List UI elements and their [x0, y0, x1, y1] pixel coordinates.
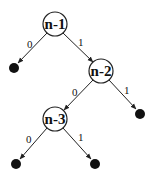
node-n-2: n-2	[89, 59, 113, 83]
edge-label-n3-leaf3: 0	[26, 133, 32, 145]
tree-diagram: 0 1 0 1 0 1 n-1 n-2 n-3	[0, 0, 155, 180]
leaf-node	[11, 159, 21, 169]
edge-n3-leaf3	[20, 128, 47, 159]
node-label: n-2	[91, 63, 112, 79]
node-n-1: n-1	[43, 12, 67, 36]
edge-label-n1-leaf1: 0	[27, 38, 33, 50]
edge-n3-leaf4	[63, 128, 91, 159]
node-n-3: n-3	[43, 107, 67, 131]
leaf-node	[135, 109, 145, 119]
edge-label-n2-n3: 0	[72, 86, 78, 98]
node-label: n-1	[45, 16, 66, 32]
node-label: n-3	[45, 111, 66, 127]
edge-label-n2-leaf2: 1	[124, 84, 130, 96]
edge-n2-n3	[64, 80, 93, 110]
edge-label-n3-leaf4: 1	[78, 131, 84, 143]
leaf-node	[9, 63, 19, 73]
leaf-node	[90, 159, 100, 169]
edge-label-n1-n2: 1	[78, 36, 84, 48]
edge-n2-leaf2	[109, 80, 136, 109]
edge-n1-leaf1	[18, 33, 47, 63]
